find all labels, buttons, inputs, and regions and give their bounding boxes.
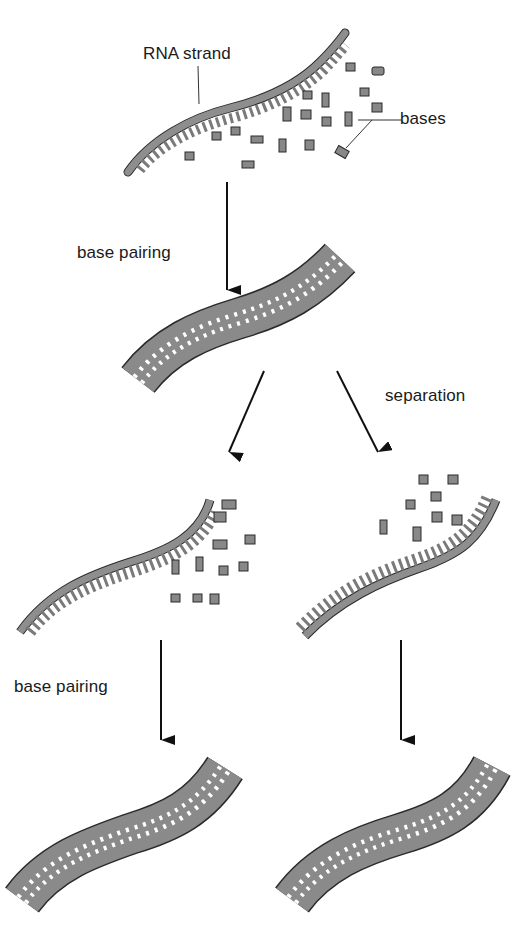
arrow-separation (337, 371, 378, 452)
rna-replication-diagram (0, 0, 522, 942)
label-base-pairing-2: base pairing (14, 677, 108, 697)
label-base-pairing-1: base pairing (77, 243, 171, 263)
separated-strand-left (20, 500, 255, 632)
label-separation: separation (385, 386, 465, 406)
label-bases: bases (400, 109, 446, 129)
arrow-to-left (229, 371, 264, 452)
separated-strand-right (300, 475, 496, 636)
label-rna-strand: RNA strand (143, 44, 231, 64)
